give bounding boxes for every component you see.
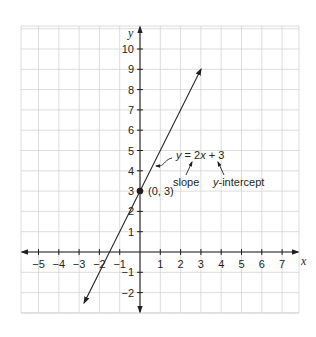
x-tick-label: −3 xyxy=(73,258,86,270)
x-tick-label: 3 xyxy=(198,258,204,270)
y-tick-label: 3 xyxy=(128,185,134,197)
y-intercept-point xyxy=(137,188,144,195)
y-intercept-label: y-intercept xyxy=(212,176,264,188)
x-axis-label: x xyxy=(300,254,307,268)
slope-pointer-arrow xyxy=(186,162,192,175)
equation-pointer-arrow xyxy=(156,158,172,166)
y-tick-label: 10 xyxy=(122,43,134,55)
equation-label: y = 2x + 3 xyxy=(175,149,224,161)
x-tick-label: 2 xyxy=(178,258,184,270)
x-tick-label: −4 xyxy=(53,258,66,270)
y-tick-label: −2 xyxy=(121,287,134,299)
x-tick-label: 6 xyxy=(259,258,265,270)
y-tick-label: 9 xyxy=(128,63,134,75)
x-tick-label: 1 xyxy=(157,258,163,270)
y-tick-label: −1 xyxy=(121,266,134,278)
y-tick-label: 7 xyxy=(128,104,134,116)
y-tick-label: 5 xyxy=(128,145,134,157)
y-tick-label: 6 xyxy=(128,124,134,136)
y-tick-label: 4 xyxy=(128,165,134,177)
yint-rest: -intercept xyxy=(219,176,265,188)
eq-tail: + 3 xyxy=(206,149,225,161)
linear-function-graph: −5−4−3−2−11234567−2−112345678910 x y (0,… xyxy=(0,0,316,337)
y-axis-label: y xyxy=(127,26,134,40)
x-tick-label: 5 xyxy=(238,258,244,270)
point-label: (0, 3) xyxy=(148,185,174,197)
x-tick-label: 7 xyxy=(279,258,285,270)
slope-label: slope xyxy=(173,176,199,188)
x-tick-label: 4 xyxy=(218,258,224,270)
x-tick-label: −5 xyxy=(32,258,45,270)
eq-mid: = 2 xyxy=(182,149,201,161)
y-tick-label: 1 xyxy=(128,226,134,238)
y-tick-label: 8 xyxy=(128,84,134,96)
y-tick-label: 2 xyxy=(128,205,134,217)
